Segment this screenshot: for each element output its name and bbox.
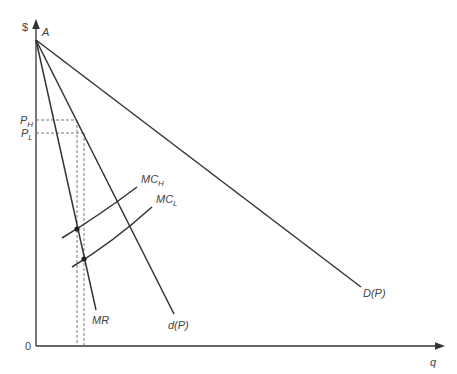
mc-high-label: MCH xyxy=(141,173,164,188)
d-small-label: d(P) xyxy=(168,319,189,331)
price-low-label: PL xyxy=(21,127,33,142)
x-axis-label: q xyxy=(430,356,437,368)
diagram-canvas: $ A 0 q PH PL MCH MCL MR d(P) D(P) xyxy=(0,0,457,374)
intersection-high xyxy=(74,226,79,231)
price-guides xyxy=(36,120,84,346)
demand-curve-D xyxy=(36,40,361,287)
y-axis-label: $ xyxy=(22,21,28,33)
d-large-label: D(P) xyxy=(363,287,386,299)
mr-label: MR xyxy=(92,314,109,326)
intersection-low xyxy=(81,256,86,261)
mc-high-curve xyxy=(62,187,137,238)
marginal-revenue-curve xyxy=(36,40,96,310)
apex-label: A xyxy=(41,26,49,38)
origin-label: 0 xyxy=(25,340,31,352)
mc-low-label: MCL xyxy=(156,193,178,208)
